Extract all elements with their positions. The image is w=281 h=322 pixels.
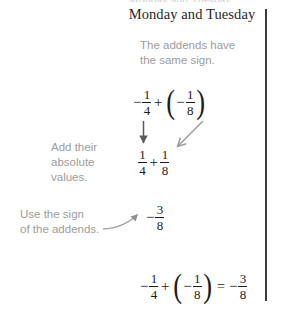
minus-sign-a: − <box>140 278 149 295</box>
note-use-sign-line-1: Use the sign <box>20 207 99 222</box>
plus-operator: + <box>158 278 171 295</box>
worksheet-page: Monday and Tuesday Monday and Tuesday Th… <box>0 0 281 322</box>
note-same-sign-line-2: the same sign. <box>140 53 235 68</box>
fraction-one-fourth: 1 4 <box>138 148 147 178</box>
denominator: 8 <box>156 219 165 232</box>
clipped-heading-above: Monday and Tuesday <box>128 0 252 2</box>
fraction-three-eighths-result: 3 8 <box>238 272 247 302</box>
fraction-one-fourth: 1 4 <box>149 272 158 302</box>
numerator: 1 <box>193 272 202 285</box>
minus-sign-b: − <box>183 278 192 295</box>
expression-step-3: − 3 8 <box>146 203 164 233</box>
numerator: 1 <box>143 88 152 101</box>
numerator: 1 <box>161 148 170 161</box>
note-same-sign: The addends have the same sign. <box>140 38 235 68</box>
denominator: 4 <box>150 288 159 301</box>
note-use-sign: Use the sign of the addends. <box>20 207 99 237</box>
note-absolute-values: Add their absolute values. <box>51 140 97 185</box>
note-absolute-values-line-2: absolute <box>51 155 97 170</box>
fraction-one-eighth: 1 8 <box>186 88 195 118</box>
note-same-sign-line-1: The addends have <box>140 38 235 53</box>
arrow-diagonal-to-absolute-value-second-term <box>178 121 203 146</box>
denominator: 4 <box>138 164 147 177</box>
equals-sign: = <box>213 279 229 295</box>
denominator: 4 <box>143 104 152 117</box>
denominator: 8 <box>186 104 195 117</box>
minus-sign: − <box>146 209 155 226</box>
numerator: 1 <box>138 148 147 161</box>
fraction-one-eighth: 1 8 <box>193 272 202 302</box>
note-absolute-values-line-1: Add their <box>51 140 97 155</box>
fraction-three-eighths: 3 8 <box>155 203 164 233</box>
expression-step-2: 1 4 + 1 8 <box>138 148 169 178</box>
plus-operator: + <box>147 154 160 171</box>
note-use-sign-line-2: of the addends. <box>20 222 99 237</box>
minus-sign-b: − <box>176 94 185 111</box>
denominator: 8 <box>161 164 170 177</box>
fraction-one-eighth: 1 8 <box>160 148 169 178</box>
vertical-divider-rule <box>265 9 267 301</box>
numerator: 1 <box>150 272 159 285</box>
fraction-one-fourth: 1 4 <box>142 88 151 118</box>
numerator: 3 <box>239 272 248 285</box>
result-minus-sign: − <box>229 278 238 295</box>
expression-step-1: − 1 4 + ( − 1 8 ) <box>133 88 206 118</box>
arrow-use-sign-to-result-sign <box>103 215 138 230</box>
denominator: 8 <box>239 288 248 301</box>
page-title: Monday and Tuesday <box>126 6 258 23</box>
minus-sign-a: − <box>133 94 142 111</box>
expression-step-4: − 1 4 + ( − 1 8 ) = − 3 8 <box>140 272 247 302</box>
numerator: 3 <box>156 203 165 216</box>
denominator: 8 <box>193 288 202 301</box>
numerator: 1 <box>186 88 195 101</box>
note-absolute-values-line-3: values. <box>51 170 97 185</box>
plus-operator: + <box>151 94 164 111</box>
